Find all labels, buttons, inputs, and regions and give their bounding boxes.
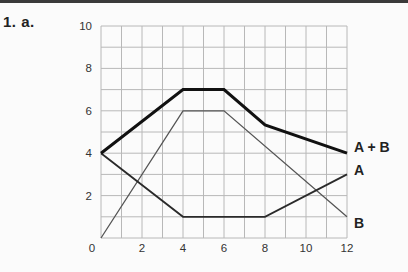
- x-tick-label: 10: [300, 242, 313, 254]
- series-label: A: [354, 162, 364, 178]
- y-axis-ticks: 246810: [79, 20, 92, 202]
- y-tick-label: 6: [86, 105, 92, 117]
- x-tick-label: 0: [89, 242, 95, 254]
- y-tick-label: 10: [79, 20, 92, 32]
- x-tick-label: 4: [180, 242, 187, 254]
- y-tick-label: 8: [86, 62, 92, 74]
- y-tick-label: 4: [86, 147, 93, 159]
- x-tick-label: 2: [139, 242, 145, 254]
- x-tick-label: 6: [221, 242, 227, 254]
- y-tick-label: 2: [86, 190, 92, 202]
- series-labels: A + BAB: [354, 139, 390, 231]
- x-axis-ticks: 024681012: [89, 242, 354, 254]
- chart-grid: [101, 26, 347, 238]
- line-chart: 024681012 246810 A + BAB: [0, 0, 408, 272]
- series-label: B: [354, 215, 364, 231]
- x-tick-label: 12: [341, 242, 354, 254]
- x-tick-label: 8: [262, 242, 268, 254]
- series-label: A + B: [354, 139, 390, 155]
